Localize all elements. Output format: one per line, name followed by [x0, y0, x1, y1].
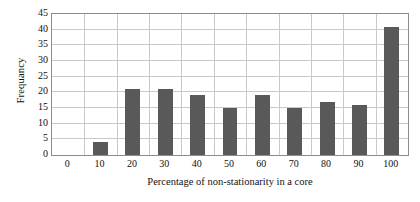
x-axis-tick-label: 70: [289, 158, 299, 170]
y-axis-tick-label: 45: [24, 8, 48, 18]
horizontal-gridline: [52, 76, 408, 77]
x-axis-tick-label: 20: [127, 158, 137, 170]
y-axis-tick-label: 40: [24, 24, 48, 34]
vertical-gridline: [84, 14, 85, 155]
x-axis-tick-labels: 0102030405060708090100: [51, 158, 409, 172]
x-axis-tick-label: 60: [256, 158, 266, 170]
horizontal-gridline: [52, 44, 408, 45]
bar: [352, 105, 367, 155]
y-axis-tick-label: 20: [24, 86, 48, 96]
vertical-gridline: [181, 14, 182, 155]
bar: [255, 95, 270, 155]
horizontal-gridline: [52, 60, 408, 61]
bar: [190, 95, 205, 155]
y-axis-tick-label: 10: [24, 118, 48, 128]
vertical-gridline: [117, 14, 118, 155]
y-axis-tick-label: 5: [24, 133, 48, 143]
horizontal-gridline: [52, 91, 408, 92]
y-axis-tick-label: 25: [24, 71, 48, 81]
x-axis-tick-label: 90: [353, 158, 363, 170]
y-axis-tick-label: 30: [24, 55, 48, 65]
x-axis-tick-label: 0: [65, 158, 70, 170]
horizontal-gridline: [52, 29, 408, 30]
x-axis-tick-label: 100: [383, 158, 398, 170]
x-axis-tick-label: 10: [95, 158, 105, 170]
x-axis-tick-label: 40: [192, 158, 202, 170]
x-axis-tick-label: 80: [321, 158, 331, 170]
x-axis-title: Percentage of non-stationarity in a core: [51, 176, 409, 187]
bar: [287, 108, 302, 155]
x-axis-tick-label: 30: [159, 158, 169, 170]
bar: [223, 108, 238, 155]
x-axis-tick-label: 50: [224, 158, 234, 170]
vertical-gridline: [311, 14, 312, 155]
y-axis-tick-label: 35: [24, 39, 48, 49]
vertical-gridline: [343, 14, 344, 155]
vertical-gridline: [214, 14, 215, 155]
y-axis-tick-labels: 051015202530354045: [24, 13, 48, 156]
vertical-gridline: [279, 14, 280, 155]
bar: [158, 89, 173, 155]
bar-chart-figure: Frequancy 051015202530354045 01020304050…: [0, 0, 420, 202]
y-axis-tick-label: 15: [24, 102, 48, 112]
vertical-gridline: [246, 14, 247, 155]
bar: [320, 102, 335, 155]
vertical-gridline: [376, 14, 377, 155]
bar: [384, 27, 399, 155]
bar: [93, 142, 108, 155]
bar: [125, 89, 140, 155]
y-axis-tick-label: 0: [24, 149, 48, 159]
vertical-gridline: [149, 14, 150, 155]
plot-area: [51, 13, 409, 156]
